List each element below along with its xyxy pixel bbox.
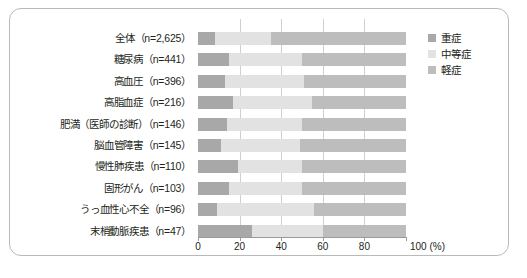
stacked-bar xyxy=(198,160,406,173)
category-label: 高脂血症（n=216） xyxy=(10,92,195,113)
bar-segment-重症 xyxy=(198,139,221,152)
category-label: 肥満（医師の診断）（n=146） xyxy=(10,114,195,135)
category-label: 固形がん（n=103） xyxy=(10,178,195,199)
bar-segment-重症 xyxy=(198,225,252,238)
bar-segment-重症 xyxy=(198,32,215,45)
bar-segment-軽症 xyxy=(302,53,406,66)
bar-segment-重症 xyxy=(198,160,238,173)
bar-segment-中等症 xyxy=(238,160,302,173)
bar-segment-中等症 xyxy=(221,139,300,152)
category-label: 慢性肺疾患（n=110） xyxy=(10,156,195,177)
bar-segment-重症 xyxy=(198,182,229,195)
legend-label: 重症 xyxy=(441,30,461,45)
category-label: 糖尿病（n=441） xyxy=(10,49,195,70)
bar-segment-軽症 xyxy=(304,75,406,88)
category-label: うっ血性心不全（n=96） xyxy=(10,199,195,220)
category-label: 高血圧（n=396） xyxy=(10,71,195,92)
stacked-bar xyxy=(198,32,406,45)
bar-segment-重症 xyxy=(198,75,225,88)
legend-label: 中等症 xyxy=(441,46,471,61)
bar-segment-軽症 xyxy=(302,118,406,131)
bar-segment-中等症 xyxy=(227,118,302,131)
legend-swatch-severe xyxy=(428,34,436,42)
legend-swatch-mild xyxy=(428,66,436,74)
bar-segment-軽症 xyxy=(312,96,406,109)
bar-segment-軽症 xyxy=(314,203,406,216)
bar-segment-軽症 xyxy=(323,225,406,238)
bar-segment-軽症 xyxy=(300,139,406,152)
x-tick-100 xyxy=(406,237,407,241)
stacked-bar xyxy=(198,139,406,152)
legend-item-重症: 重症 xyxy=(428,30,498,45)
stacked-bar xyxy=(198,182,406,195)
legend-item-軽症: 軽症 xyxy=(428,62,498,77)
x-tick-label-20: 20 xyxy=(234,241,245,252)
category-label: 末梢動脈疾患（n=47） xyxy=(10,221,195,242)
chart-legend: 重症中等症軽症 xyxy=(428,30,498,78)
stacked-bar xyxy=(198,203,406,216)
x-tick-label-40: 40 xyxy=(276,241,287,252)
x-axis-unit-label: 100 (%) xyxy=(410,241,445,252)
category-label: 全体（n=2,625） xyxy=(10,28,195,49)
bar-segment-中等症 xyxy=(252,225,323,238)
bar-segment-中等症 xyxy=(215,32,271,45)
stacked-bar xyxy=(198,96,406,109)
bar-segment-中等症 xyxy=(233,96,312,109)
bar-segment-軽症 xyxy=(271,32,406,45)
stacked-bar-chart: 全体（n=2,625）糖尿病（n=441）高血圧（n=396）高脂血症（n=21… xyxy=(10,9,510,257)
stacked-bar xyxy=(198,225,406,238)
bar-segment-中等症 xyxy=(217,203,315,216)
legend-swatch-moderate xyxy=(428,50,436,58)
bar-segment-重症 xyxy=(198,96,233,109)
bar-segment-重症 xyxy=(198,203,217,216)
bar-segment-中等症 xyxy=(225,75,304,88)
stacked-bar xyxy=(198,118,406,131)
legend-label: 軽症 xyxy=(441,62,461,77)
x-tick-label-0: 0 xyxy=(195,241,201,252)
stacked-bar xyxy=(198,53,406,66)
plot-area xyxy=(198,19,406,237)
category-label: 脳血管障害（n=145） xyxy=(10,135,195,156)
x-axis-line xyxy=(198,237,406,238)
bar-segment-重症 xyxy=(198,53,229,66)
bar-segment-軽症 xyxy=(302,182,406,195)
legend-item-中等症: 中等症 xyxy=(428,46,498,61)
bar-segment-中等症 xyxy=(229,53,302,66)
bar-segment-重症 xyxy=(198,118,227,131)
bar-segment-軽症 xyxy=(302,160,406,173)
x-tick-label-60: 60 xyxy=(317,241,328,252)
bar-segment-中等症 xyxy=(229,182,302,195)
figure-card: 全体（n=2,625）糖尿病（n=441）高血圧（n=396）高脂血症（n=21… xyxy=(9,8,509,256)
stacked-bar xyxy=(198,75,406,88)
x-tick-label-80: 80 xyxy=(359,241,370,252)
